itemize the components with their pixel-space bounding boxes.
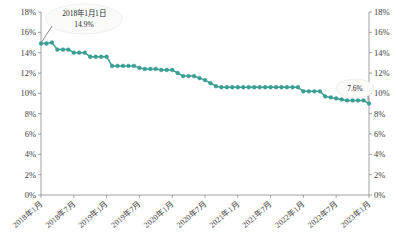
- data-point-marker: [236, 85, 240, 89]
- y-axis-right-tick-label: 0%: [374, 190, 385, 200]
- x-axis-tick-label: 2018年1月: [10, 199, 44, 230]
- data-point-marker: [165, 68, 169, 72]
- data-point-marker: [291, 85, 295, 89]
- data-point-marker: [148, 67, 152, 71]
- data-point-marker: [83, 51, 87, 55]
- data-point-marker: [323, 94, 327, 98]
- y-axis-left-tick-label: 18%: [20, 7, 36, 17]
- data-point-marker: [88, 55, 92, 59]
- y-axis-right-tick-label: 4%: [374, 149, 385, 159]
- data-point-marker: [362, 99, 366, 103]
- data-point-marker: [367, 102, 371, 106]
- start-annotation-leader: [42, 26, 52, 42]
- data-point-marker: [263, 85, 267, 89]
- x-axis-tick-label: 2021年7月: [240, 199, 274, 230]
- y-axis-right-tick-label: 18%: [374, 7, 390, 17]
- y-axis-right-tick-label: 12%: [374, 68, 390, 78]
- data-point-marker: [345, 99, 349, 103]
- y-axis-left-tick-label: 8%: [25, 109, 36, 119]
- data-point-marker: [220, 85, 224, 89]
- y-axis-left-tick-label: 16%: [20, 27, 36, 37]
- data-point-marker: [159, 68, 163, 72]
- y-axis-right-tick-label: 14%: [374, 48, 390, 58]
- data-point-marker: [198, 76, 202, 80]
- annotations-layer: 2018年1月1日14.9%7.6%: [42, 4, 374, 101]
- x-axis-tick-label: 2022年7月: [305, 199, 339, 230]
- series-line: [41, 43, 369, 104]
- line-chart: 0%2%4%6%8%10%12%14%16%18% 0%2%4%6%8%10%1…: [0, 0, 405, 243]
- x-axis: 2018年1月2018年7月2019年1月2019年7月2020年1月2020年…: [10, 195, 372, 230]
- x-axis-tick-label: 2021年1月: [207, 199, 241, 230]
- y-axis-left-tick-label: 6%: [25, 129, 36, 139]
- data-point-marker: [241, 85, 245, 89]
- data-point-marker: [285, 85, 289, 89]
- data-series: [39, 41, 371, 106]
- x-axis-tick-label: 2018年7月: [43, 199, 77, 230]
- data-point-marker: [192, 74, 196, 78]
- data-point-marker: [127, 64, 131, 68]
- data-point-marker: [340, 98, 344, 102]
- data-point-marker: [302, 89, 306, 93]
- data-point-marker: [181, 74, 185, 78]
- data-point-marker: [99, 55, 103, 59]
- data-point-marker: [334, 97, 338, 101]
- y-axis-right-tick-label: 10%: [374, 88, 390, 98]
- data-point-marker: [203, 78, 207, 82]
- y-axis-left-tick-label: 2%: [25, 170, 36, 180]
- data-point-marker: [269, 85, 273, 89]
- data-point-marker: [61, 48, 65, 52]
- data-point-marker: [94, 55, 98, 59]
- data-point-marker: [154, 67, 158, 71]
- data-point-marker: [39, 42, 43, 46]
- data-point-marker: [252, 85, 256, 89]
- data-point-marker: [105, 55, 109, 59]
- data-point-marker: [72, 51, 76, 55]
- data-point-marker: [274, 85, 278, 89]
- data-point-marker: [56, 48, 60, 52]
- data-point-marker: [132, 64, 136, 68]
- data-point-marker: [280, 85, 284, 89]
- data-point-marker: [225, 85, 229, 89]
- x-axis-tick-label: 2019年7月: [109, 199, 143, 230]
- data-point-marker: [307, 89, 311, 93]
- data-point-marker: [121, 64, 125, 68]
- data-point-marker: [312, 89, 316, 93]
- data-point-marker: [170, 68, 174, 72]
- y-axis-right-tick-label: 2%: [374, 170, 385, 180]
- data-point-marker: [50, 41, 54, 45]
- data-point-marker: [110, 64, 114, 68]
- data-point-marker: [116, 64, 120, 68]
- y-axis-left-tick-label: 0%: [25, 190, 36, 200]
- y-axis-right-tick-label: 6%: [374, 129, 385, 139]
- data-point-marker: [187, 74, 191, 78]
- data-point-marker: [176, 71, 180, 75]
- x-axis-tick-label: 2020年1月: [141, 199, 175, 230]
- start-annotation-date: 2018年1月1日: [62, 8, 106, 18]
- data-point-marker: [247, 85, 251, 89]
- data-point-marker: [66, 48, 70, 52]
- chart-container: 0%2%4%6%8%10%12%14%16%18% 0%2%4%6%8%10%1…: [0, 0, 405, 243]
- data-point-marker: [351, 99, 355, 103]
- data-point-marker: [209, 81, 213, 85]
- x-axis-tick-label: 2023年1月: [338, 199, 372, 230]
- data-point-marker: [318, 89, 322, 93]
- y-axis-left-tick-label: 14%: [20, 48, 36, 58]
- x-axis-tick-label: 2020年7月: [174, 199, 208, 230]
- data-point-marker: [77, 51, 81, 55]
- data-point-marker: [45, 42, 49, 46]
- x-axis-tick-label: 2022年1月: [273, 199, 307, 230]
- data-point-marker: [296, 85, 300, 89]
- y-axis-right-tick-label: 8%: [374, 109, 385, 119]
- y-axis-left-tick-label: 12%: [20, 68, 36, 78]
- data-point-marker: [230, 85, 234, 89]
- end-annotation-value: 7.6%: [347, 84, 363, 93]
- data-point-marker: [214, 84, 218, 88]
- y-axis-right: 0%2%4%6%8%10%12%14%16%18%: [369, 7, 390, 200]
- start-annotation-value: 14.9%: [74, 20, 93, 29]
- y-axis-right-tick-label: 16%: [374, 27, 390, 37]
- y-axis-left-tick-label: 4%: [25, 149, 36, 159]
- data-point-marker: [356, 99, 360, 103]
- x-axis-tick-label: 2019年1月: [76, 199, 110, 230]
- y-axis-left: 0%2%4%6%8%10%12%14%16%18%: [20, 7, 41, 200]
- data-point-marker: [258, 85, 262, 89]
